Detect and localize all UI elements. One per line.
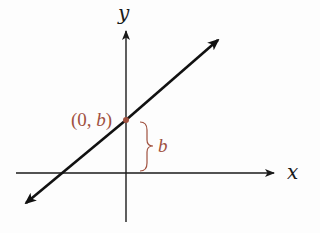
graph-line-lower <box>26 120 126 203</box>
intercept-label: (0, b) <box>71 109 112 131</box>
intercept-label-close: ) <box>106 109 112 131</box>
y-intercept-point <box>123 117 129 123</box>
y-axis-label: y <box>117 1 130 25</box>
intercept-label-var: b <box>96 109 106 130</box>
diagram-svg: y x (0, b) b <box>0 0 320 233</box>
slope-intercept-diagram: y x (0, b) b <box>0 0 320 233</box>
graph-line <box>126 40 218 120</box>
brace-label: b <box>158 135 168 156</box>
brace-icon <box>140 122 153 171</box>
x-axis-label: x <box>287 160 298 184</box>
intercept-label-open: (0, <box>71 109 96 131</box>
